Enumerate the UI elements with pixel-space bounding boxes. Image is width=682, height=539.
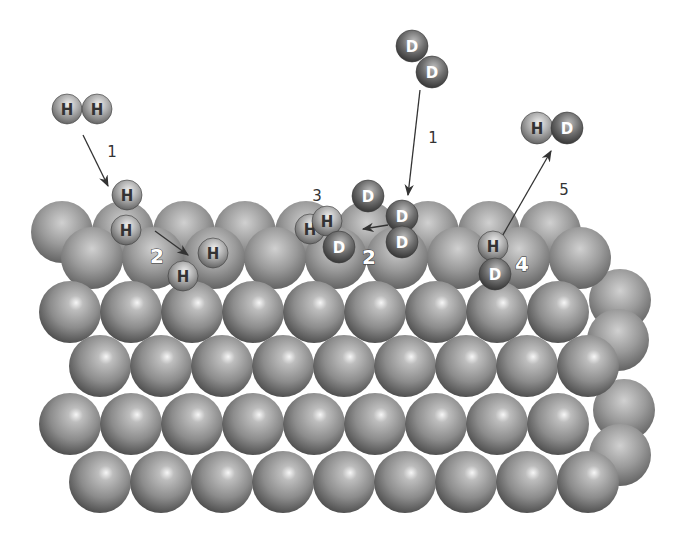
metal-atom — [130, 335, 192, 397]
metal-atom — [374, 335, 436, 397]
atom-symbol: D — [396, 208, 408, 226]
metal-atom — [435, 451, 497, 513]
metal-atom — [527, 393, 589, 455]
metal-atom — [100, 281, 162, 343]
diagram-canvas: HHHHHHDDDDDHHDHDHD 1213245 — [0, 0, 682, 539]
metal-atom — [344, 393, 406, 455]
metal-atom — [39, 281, 101, 343]
metal-atom-back — [427, 227, 489, 289]
atom-symbol: H — [487, 238, 500, 256]
metal-atom — [252, 335, 314, 397]
step-3-label: 3 — [312, 187, 322, 205]
metal-atom — [39, 393, 101, 455]
atom-symbol: D — [396, 234, 408, 252]
deuterium-atom: D — [479, 258, 511, 290]
metal-atom — [374, 451, 436, 513]
atom-symbol: H — [321, 213, 334, 231]
metal-atom — [161, 281, 223, 343]
metal-atom — [405, 281, 467, 343]
deuterium-atom: D — [352, 180, 384, 212]
deuterium-atom: D — [551, 112, 583, 144]
arrow-h2-adsorb — [83, 135, 108, 186]
metal-atom — [527, 281, 589, 343]
metal-atom-back — [549, 227, 611, 289]
metal-atom — [466, 281, 528, 343]
hydrogen-atom: H — [52, 94, 82, 124]
metal-atom — [405, 393, 467, 455]
atom-symbol: H — [177, 268, 190, 286]
step-1-h2-label: 1 — [107, 143, 117, 161]
atom-symbol: D — [362, 188, 374, 206]
isotope-exchange-diagram: HHHHHHDDDDDHHDHDHD 1213245 — [0, 0, 682, 539]
metal-atom — [69, 451, 131, 513]
hydrogen-atom: H — [168, 261, 198, 291]
hydrogen-atom: H — [521, 112, 553, 144]
metal-atom — [557, 335, 619, 397]
hydrogen-atom: H — [111, 215, 141, 245]
atom-symbol: H — [61, 101, 74, 119]
arrow-d2-adsorb — [408, 90, 420, 195]
deuterium-atom: D — [386, 226, 418, 258]
metal-atom — [191, 451, 253, 513]
atom-symbol: D — [406, 38, 418, 56]
atom-symbol: D — [561, 120, 573, 138]
metal-atom — [496, 335, 558, 397]
metal-atom — [496, 451, 558, 513]
atom-symbol: H — [91, 101, 104, 119]
step-5-label: 5 — [559, 181, 569, 199]
atom-symbol: H — [207, 245, 220, 263]
atom-symbol: D — [333, 239, 345, 257]
metal-atom — [191, 335, 253, 397]
step-2-d-label: 2 — [362, 245, 376, 269]
metal-atom — [100, 393, 162, 455]
metal-atom — [161, 393, 223, 455]
deuterium-atom: D — [396, 30, 428, 62]
metal-atom — [344, 281, 406, 343]
hydrogen-atom: H — [478, 231, 508, 261]
metal-atom — [222, 393, 284, 455]
hydrogen-atom: H — [82, 94, 112, 124]
metal-atom — [130, 451, 192, 513]
hydrogen-atom: H — [112, 180, 142, 210]
step-1-d2-label: 1 — [428, 129, 438, 147]
atom-symbol: D — [426, 64, 438, 82]
atom-symbol: H — [120, 222, 133, 240]
metal-atom — [283, 393, 345, 455]
metal-atom — [252, 451, 314, 513]
metal-atom — [222, 281, 284, 343]
metal-atom — [313, 335, 375, 397]
metal-atom — [557, 451, 619, 513]
hydrogen-atom: H — [198, 238, 228, 268]
step-2-h-label: 2 — [150, 244, 164, 268]
atom-symbol: H — [121, 187, 134, 205]
step-4-label: 4 — [515, 252, 529, 276]
metal-atom — [283, 281, 345, 343]
metal-atom — [435, 335, 497, 397]
deuterium-atom: D — [323, 231, 355, 263]
atom-symbol: D — [489, 266, 501, 284]
metal-atom — [313, 451, 375, 513]
deuterium-atom: D — [416, 56, 448, 88]
metal-atom — [69, 335, 131, 397]
atom-symbol: H — [531, 120, 544, 138]
metal-atom — [466, 393, 528, 455]
